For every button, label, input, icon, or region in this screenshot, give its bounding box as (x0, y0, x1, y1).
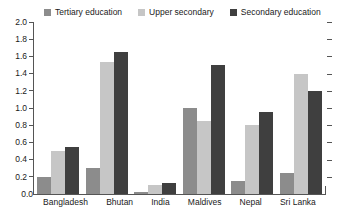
x-axis-label: Nepal (240, 198, 262, 207)
y-axis-tick-label: 1.2 (15, 87, 27, 96)
y-axis-tick-label: 2.0 (15, 18, 27, 27)
y-axis-right-tick-mark (327, 108, 332, 109)
bar[interactable] (134, 192, 148, 194)
bar[interactable] (37, 177, 51, 194)
bar-groups (34, 22, 325, 194)
y-axis-tick-label: 0.4 (15, 155, 27, 164)
legend-label: Upper secondary (149, 8, 214, 17)
bar-group (231, 22, 273, 194)
bar[interactable] (231, 181, 245, 194)
y-axis: 2.01.81.61.41.21.00.80.60.40.20.0 (0, 22, 33, 194)
bar-group (134, 22, 176, 194)
chart-page: Tertiary educationUpper secondarySeconda… (0, 0, 343, 220)
y-axis-tick: 0.2 (15, 172, 33, 182)
y-axis-tick: 0.6 (15, 137, 33, 147)
y-axis-right-tick-mark (327, 160, 332, 161)
plot-area (34, 22, 325, 194)
y-axis-tick: 0.8 (15, 120, 33, 130)
bar[interactable] (148, 185, 162, 194)
legend-item[interactable]: Tertiary education (44, 8, 122, 17)
y-axis-right-tick-mark (327, 142, 332, 143)
bar[interactable] (100, 62, 114, 194)
bar[interactable] (114, 52, 128, 194)
legend-item[interactable]: Upper secondary (138, 8, 214, 17)
y-axis-right-tick-mark (327, 56, 332, 57)
x-axis-label: Bhutan (106, 198, 133, 207)
y-axis-tick: 1.0 (15, 103, 33, 113)
y-axis-tick-label: 0.0 (21, 190, 33, 199)
legend-item[interactable]: Secondary education (230, 8, 321, 17)
legend-label: Secondary education (241, 8, 321, 17)
y-axis-tick-label: 1.6 (15, 52, 27, 61)
y-axis-tick: 1.4 (15, 69, 33, 79)
bar-group (280, 22, 322, 194)
y-axis-tick-label: 1.0 (15, 104, 27, 113)
y-axis-right-tick-mark (327, 177, 332, 178)
x-axis-label: Sri Lanka (280, 198, 316, 207)
legend-swatch-icon (230, 9, 237, 16)
bar[interactable] (65, 147, 79, 194)
bar[interactable] (245, 125, 259, 194)
bar[interactable] (162, 183, 176, 194)
y-axis-tick: 1.8 (15, 34, 33, 44)
y-axis-tick-label: 1.4 (15, 69, 27, 78)
y-axis-right-ticks (327, 22, 343, 194)
legend-swatch-icon (44, 9, 51, 16)
bar[interactable] (197, 121, 211, 194)
x-axis-label: India (151, 198, 169, 207)
x-axis-label: Bangladesh (43, 198, 88, 207)
bar[interactable] (259, 112, 273, 194)
chart-legend: Tertiary educationUpper secondarySeconda… (44, 5, 321, 19)
bar[interactable] (211, 65, 225, 194)
legend-swatch-icon (138, 9, 145, 16)
x-axis-labels: BangladeshBhutanIndiaMaldivesNepalSri La… (34, 198, 325, 214)
y-axis-right-tick-mark (327, 22, 332, 23)
y-axis-tick: 1.6 (15, 51, 33, 61)
y-axis-right-tick-mark (327, 39, 332, 40)
y-axis-tick-label: 1.8 (15, 35, 27, 44)
bar[interactable] (86, 168, 100, 194)
bar[interactable] (183, 108, 197, 194)
y-axis-right-tick-mark (327, 91, 332, 92)
bar[interactable] (308, 91, 322, 194)
bar[interactable] (280, 173, 294, 195)
bar-group (183, 22, 225, 194)
x-axis-label: Maldives (188, 198, 222, 207)
y-axis-tick: 2.0 (15, 17, 33, 27)
y-axis-tick: 0.4 (15, 155, 33, 165)
bar-group (86, 22, 128, 194)
y-axis-right-tick-mark (327, 74, 332, 75)
y-axis-tick: 1.2 (15, 86, 33, 96)
y-axis-tick-label: 0.6 (15, 138, 27, 147)
y-axis-tick-label: 0.2 (15, 173, 27, 182)
bar-group (37, 22, 79, 194)
y-axis-tick-label: 0.8 (15, 121, 27, 130)
x-axis-line (33, 194, 326, 195)
y-axis-right-tick-mark (327, 125, 332, 126)
right-axis-stub (325, 186, 326, 195)
bar[interactable] (51, 151, 65, 194)
bar[interactable] (294, 74, 308, 194)
y-axis-tick: 0.0 (21, 189, 33, 199)
legend-label: Tertiary education (55, 8, 122, 17)
